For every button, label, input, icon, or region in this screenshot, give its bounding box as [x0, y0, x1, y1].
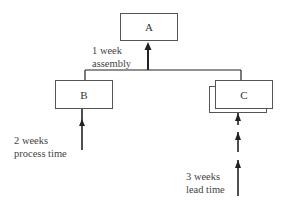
node-b: B [55, 80, 113, 109]
lead-time-arrows [235, 113, 241, 196]
node-c-label: C [240, 89, 247, 101]
lead-time-annotation: 3 weeks lead time [186, 170, 225, 196]
assembly-line2: assembly [92, 57, 131, 70]
process-time-annotation: 2 weeks process time [14, 134, 67, 160]
process-line2: process time [14, 147, 67, 160]
node-b-label: B [80, 89, 87, 101]
node-a-label: A [145, 21, 153, 33]
node-c: C [215, 80, 273, 109]
node-a: A [120, 13, 178, 41]
process-line1: 2 weeks [14, 134, 67, 147]
lead-line1: 3 weeks [186, 170, 225, 183]
assembly-line1: 1 week [92, 44, 131, 57]
process-time-arrow [79, 108, 85, 150]
assembly-arrow [145, 42, 152, 70]
assembly-annotation: 1 week assembly [92, 44, 131, 70]
lead-line2: lead time [186, 183, 225, 196]
